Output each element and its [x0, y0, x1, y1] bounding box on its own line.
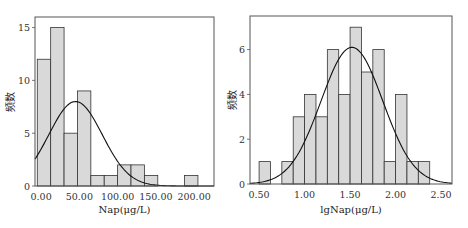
histogram-bar: [350, 27, 361, 184]
histogram-bar: [91, 175, 104, 186]
histogram-bar: [361, 72, 372, 184]
histogram-figure: 0510150.0050.00100.00150.00200.00Nap(μg/…: [0, 0, 468, 228]
histogram-nap: 0510150.0050.00100.00150.00200.00Nap(μg/…: [4, 17, 214, 215]
y-axis-label: 频数: [226, 90, 238, 110]
x-axis-label: Nap(μg/L): [99, 204, 151, 215]
y-tick-label: 5: [24, 128, 30, 139]
x-tick-label: 50.00: [66, 191, 93, 202]
x-axis-label: lgNap(μg/L): [320, 204, 382, 215]
x-tick-label: 2.00: [385, 189, 406, 200]
y-axis-label: 频数: [4, 92, 16, 112]
y-tick-label: 4: [239, 89, 245, 100]
y-tick-label: 15: [18, 22, 30, 33]
x-tick-label: 150.00: [139, 191, 172, 202]
y-tick-label: 0: [239, 179, 245, 190]
histogram-bar: [51, 28, 64, 186]
y-tick-label: 0: [24, 181, 30, 192]
y-tick-label: 10: [18, 75, 30, 86]
x-tick-label: 1.50: [340, 189, 361, 200]
histogram-bar: [384, 162, 395, 184]
histogram-bar: [339, 94, 350, 184]
histogram-bar: [418, 162, 429, 184]
histogram-bar: [37, 59, 50, 186]
histogram-bar: [316, 117, 327, 184]
x-tick-label: 100.00: [101, 191, 134, 202]
x-tick-label: 200.00: [177, 191, 210, 202]
x-tick-label: 0.00: [31, 191, 52, 202]
x-tick-label: 1.00: [294, 189, 315, 200]
histogram-lgnap: 02460.501.001.502.002.50lgNap(μg/L)频数: [226, 16, 452, 215]
histogram-bar: [104, 175, 117, 186]
y-tick-label: 6: [239, 44, 245, 55]
histogram-bar: [293, 117, 304, 184]
y-tick-label: 2: [239, 134, 245, 145]
histogram-bar: [64, 133, 77, 186]
histogram-bar: [118, 165, 131, 186]
histogram-bar: [185, 175, 198, 186]
x-tick-label: 0.50: [249, 189, 270, 200]
histogram-bar: [373, 50, 384, 184]
histogram-bar: [396, 94, 407, 184]
x-tick-label: 2.50: [431, 189, 452, 200]
